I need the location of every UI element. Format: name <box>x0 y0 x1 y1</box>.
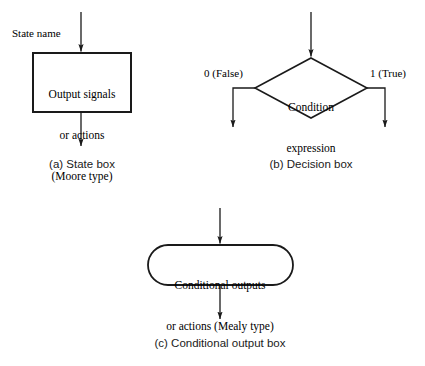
decision-box-true-label: 1 (True) <box>370 67 406 80</box>
state-name-label: State name <box>12 27 61 40</box>
asm-symbols-figure: State name Output signals or actions (Mo… <box>0 0 425 366</box>
decision-box-caption: (b) Decision box <box>211 158 411 172</box>
decision-box-true-branch-arrow <box>367 88 385 127</box>
state-box-text-line-2: or actions <box>12 129 152 143</box>
conditional-output-box-caption: (c) Conditional output box <box>80 337 360 351</box>
state-box-caption: (a) State box <box>0 158 182 172</box>
conditional-output-box-text-line-2: or actions (Mealy type) <box>125 320 315 334</box>
decision-box-text-line-1: Condition <box>256 101 366 115</box>
decision-box-false-label: 0 (False) <box>204 67 243 80</box>
decision-box-text-line-2: expression <box>256 142 366 156</box>
state-box-text-line-1: Output signals <box>12 88 152 102</box>
state-box-text-block: Output signals or actions (Moore type) <box>12 61 152 210</box>
decision-box-false-branch-arrow <box>233 88 255 127</box>
conditional-output-box-text-line-1: Conditional outputs <box>125 279 315 293</box>
